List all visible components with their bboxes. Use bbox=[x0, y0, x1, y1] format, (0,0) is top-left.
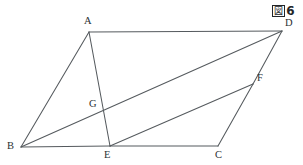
vertex-label-D: D bbox=[285, 18, 293, 29]
segment-AB bbox=[21, 32, 89, 147]
figure-caption: 図6 bbox=[272, 5, 295, 17]
vertex-label-G: G bbox=[89, 99, 97, 110]
figure-caption-mark: 図 bbox=[272, 5, 285, 17]
geometry-figure: A B C D E F G 図6 bbox=[0, 0, 303, 165]
figure-caption-number: 6 bbox=[286, 4, 295, 18]
vertex-label-E: E bbox=[104, 150, 110, 161]
segment-FC bbox=[218, 84, 253, 146]
segment-BE bbox=[21, 146, 110, 147]
vertex-label-C: C bbox=[215, 150, 222, 161]
segment-AD bbox=[89, 31, 282, 32]
segment-EF bbox=[110, 84, 253, 146]
segment-BD bbox=[21, 31, 282, 147]
vertex-label-A: A bbox=[84, 16, 92, 27]
vertex-label-F: F bbox=[257, 73, 263, 84]
segment-AE bbox=[89, 32, 110, 146]
vertex-label-B: B bbox=[7, 141, 14, 152]
